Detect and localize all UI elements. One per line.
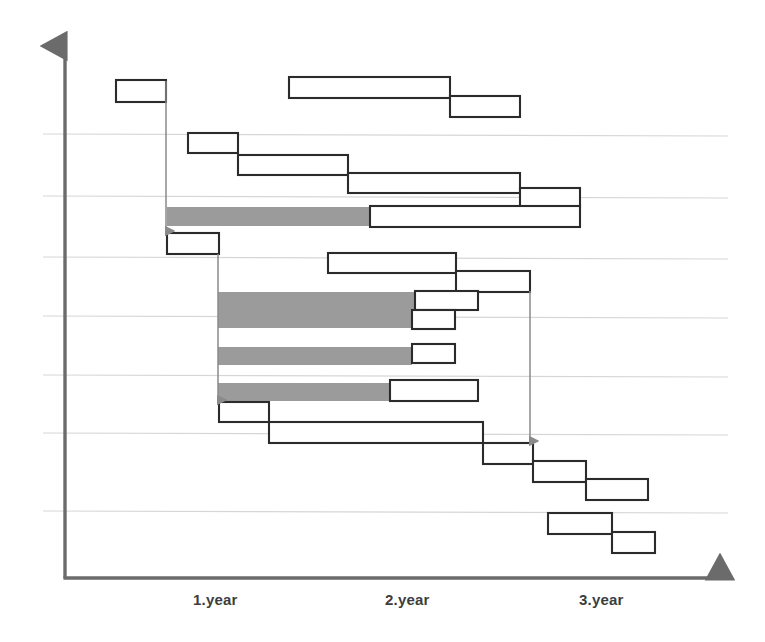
- gantt-bar[interactable]: [188, 133, 238, 153]
- gantt-bar[interactable]: [289, 77, 450, 98]
- gantt-bar[interactable]: [483, 443, 533, 464]
- gridline-1: [43, 196, 728, 198]
- gantt-bar[interactable]: [533, 461, 586, 482]
- gantt-bar[interactable]: [456, 271, 530, 292]
- gantt-bar[interactable]: [548, 513, 612, 534]
- gantt-bar[interactable]: [415, 291, 478, 310]
- gantt-bar[interactable]: [269, 422, 483, 443]
- gantt-bar-critical[interactable]: [167, 207, 370, 226]
- gantt-bar[interactable]: [238, 155, 348, 175]
- gridline-0: [43, 134, 728, 136]
- gantt-bar[interactable]: [348, 173, 520, 193]
- gantt-bar[interactable]: [328, 253, 456, 273]
- x-axis-tick-label: 3.year: [579, 591, 624, 608]
- gantt-bar[interactable]: [612, 532, 655, 553]
- gantt-bar[interactable]: [116, 80, 166, 102]
- gantt-bar-critical[interactable]: [218, 292, 415, 328]
- gantt-bar[interactable]: [390, 380, 478, 401]
- x-axis-tick-label: 1.year: [193, 591, 238, 608]
- gantt-bars: [116, 77, 655, 553]
- gridline-6: [43, 511, 728, 513]
- gantt-bar[interactable]: [219, 402, 269, 422]
- gantt-chart-canvas: [0, 0, 765, 642]
- gantt-bar[interactable]: [412, 310, 455, 329]
- gantt-bar[interactable]: [370, 206, 580, 227]
- gantt-bar-critical[interactable]: [218, 383, 390, 401]
- gantt-bar[interactable]: [586, 479, 648, 500]
- x-axis-tick-label: 2.year: [385, 591, 430, 608]
- gantt-bar-critical[interactable]: [218, 347, 412, 365]
- gridline-4: [43, 375, 728, 377]
- gantt-bar[interactable]: [167, 233, 219, 254]
- gantt-chart: 1.year2.year3.year: [0, 0, 765, 642]
- gantt-bar[interactable]: [450, 96, 520, 117]
- gantt-bar[interactable]: [412, 344, 455, 363]
